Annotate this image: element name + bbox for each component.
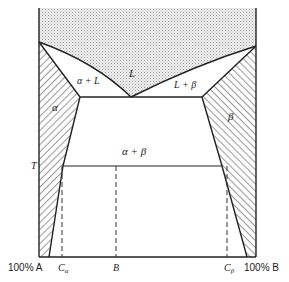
label-b: B [113,262,119,273]
label-temperature: T [31,160,38,171]
label-alpha-liquid: α + L [77,75,100,86]
label-100-a: 100% A [8,262,43,273]
label-alpha: α [52,101,58,113]
label-c-alpha: Cα [58,262,69,275]
label-c-beta: Cβ [224,262,235,275]
label-liquid: L [128,67,135,79]
label-100-b: 100% B [244,262,279,273]
label-alpha-beta: α + β [122,145,147,157]
label-beta: β [227,110,234,122]
beta-region [202,46,256,257]
phase-diagram: L α + L L + β α β α + β T 100% A Cα B Cβ… [0,0,289,282]
label-liquid-beta: L + β [173,79,196,90]
alpha-region [39,42,80,257]
